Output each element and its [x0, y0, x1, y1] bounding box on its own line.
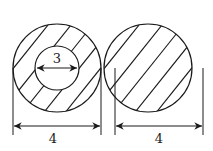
outer-circle [104, 24, 192, 112]
cross-section-diagram: 3 4 4 [0, 0, 213, 151]
diameter-label: 4 [155, 131, 163, 146]
hatching [56, 0, 213, 151]
outer-diameter-label: 4 [49, 131, 57, 146]
solid-rod-section: 4 [56, 0, 213, 151]
hollow-tube-section: 3 4 [0, 0, 150, 151]
inner-diameter-label: 3 [53, 51, 61, 66]
